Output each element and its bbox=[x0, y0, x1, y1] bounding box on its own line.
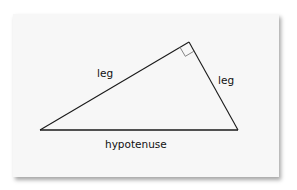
right-leg-line bbox=[189, 42, 238, 130]
right-triangle bbox=[40, 42, 238, 130]
left-leg-line bbox=[40, 42, 189, 130]
triangle-diagram: leg leg hypotenuse bbox=[0, 0, 297, 190]
hypotenuse-label: hypotenuse bbox=[105, 138, 167, 150]
leg-left-label: leg bbox=[97, 67, 113, 79]
leg-right-label: leg bbox=[218, 74, 234, 86]
